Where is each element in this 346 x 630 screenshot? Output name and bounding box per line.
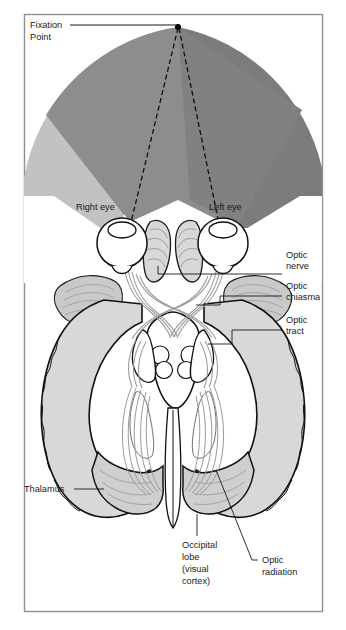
fixation-point-label-line1: Fixation: [30, 20, 62, 30]
occipital-label-line4: cortex): [182, 576, 210, 586]
optic-radiation-label-line2: radiation: [262, 567, 297, 577]
optic-tract-label-line2: tract: [286, 326, 304, 336]
figure-root: Fixation Point Right eye Left eye: [0, 0, 346, 630]
optic-nerve-label-line2: nerve: [286, 261, 309, 271]
right-eye-lens: [108, 222, 136, 238]
optic-tract-label-line1: Optic: [286, 315, 308, 325]
occipital-label-line1: Occipital: [182, 540, 217, 550]
occipital-label-line2: lobe: [182, 552, 199, 562]
visual-pathway-diagram: Fixation Point Right eye Left eye: [0, 0, 346, 630]
optic-radiation-label-line1: Optic: [262, 555, 284, 565]
right-eye-label: Right eye: [76, 202, 115, 212]
thalamus-label: Thalamus: [24, 484, 65, 494]
optic-chiasma-label-line1: Optic: [286, 281, 308, 291]
left-eye-label: Left eye: [209, 202, 242, 212]
occipital-label-line3: (visual: [182, 564, 209, 574]
field-lower-white: [24, 243, 322, 283]
optic-nerve-label-line1: Optic: [286, 250, 308, 260]
left-eye-lens: [209, 222, 237, 238]
optic-chiasma-label-line2: chiasma: [286, 292, 321, 302]
inferior-colliculus-left: [156, 362, 173, 379]
fixation-point-label-line2: Point: [30, 32, 51, 42]
